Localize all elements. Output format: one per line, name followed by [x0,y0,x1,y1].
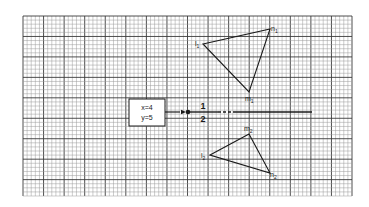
input-box-x-value: x=4 [141,104,153,111]
input-box: x=4 y=5 [129,99,165,126]
vertex-label-n2: n2 [270,171,277,180]
graph-paper-grid [23,16,352,196]
region-label-1: 1 [200,101,205,111]
region-label-2: 2 [200,114,205,124]
input-box-y-value: y=5 [141,114,153,122]
vertex-label-l1: l1 [195,40,200,49]
diagram-canvas: x=4 y=5 1 2 l1 n1 m1 l2 m2 n2 [0,0,369,207]
triangle-1-shape [203,29,270,92]
vertex-label-l2: l2 [201,152,206,161]
